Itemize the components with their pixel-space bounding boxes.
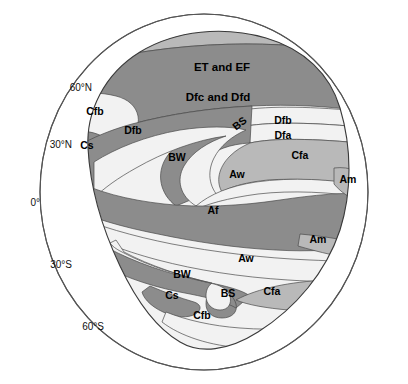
zone-label-aw-south: Aw — [238, 252, 254, 264]
zone-label-dfa-east: Dfa — [275, 129, 292, 141]
zone-label-cs-south: Cs — [165, 289, 179, 301]
zone-label-am-south: Am — [310, 233, 327, 245]
zone-label-cfa-north: Cfa — [292, 149, 309, 161]
zone-label-bs-south: BS — [221, 287, 236, 299]
zone-label-dfb-east: Dfb — [274, 114, 292, 126]
lat-label-60s: 60°S — [82, 321, 104, 332]
zone-label-dfb-north: Dfb — [124, 124, 142, 136]
lat-label-60n: 60°N — [70, 82, 92, 93]
zone-label-cs-north: Cs — [80, 139, 94, 151]
zone-label-am-north: Am — [340, 173, 357, 185]
lat-label-0: 0° — [30, 197, 40, 208]
zone-label-et-ef: ET and EF — [194, 61, 250, 73]
zone-label-af: Af — [207, 204, 219, 216]
zone-label-cfb-south: Cfb — [193, 309, 211, 321]
climate-map-svg: 60°N 30°N 0° 30°S 60°S ET and EF Dfc and… — [0, 0, 408, 384]
zone-label-cfa-south: Cfa — [264, 285, 281, 297]
lat-label-30n: 30°N — [50, 139, 72, 150]
zone-label-cfb-north: Cfb — [86, 105, 104, 117]
zone-label-dfc-dfd: Dfc and Dfd — [186, 91, 251, 103]
zone-label-bw-south: BW — [173, 268, 191, 280]
zone-label-aw-north: Aw — [229, 168, 245, 180]
climate-map-figure: 60°N 30°N 0° 30°S 60°S ET and EF Dfc and… — [0, 0, 408, 384]
zone-label-bw-north: BW — [168, 151, 186, 163]
lat-label-30s: 30°S — [50, 259, 72, 270]
